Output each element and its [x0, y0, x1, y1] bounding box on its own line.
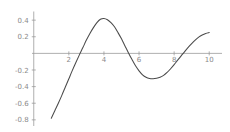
chart-canvas: 246810 0.40.2-0.2-0.4-0.6-0.8	[0, 0, 230, 132]
y-tick-label: 0.4	[18, 17, 30, 25]
x-tick-label: 6	[137, 56, 142, 64]
y-tick-label: -0.2	[15, 67, 29, 75]
y-tick-label: -0.6	[15, 100, 29, 108]
y-axis-ticks: 0.40.2-0.2-0.4-0.6-0.8	[15, 17, 36, 125]
chart-figure: 246810 0.40.2-0.2-0.4-0.6-0.8	[0, 0, 230, 132]
y-tick-label: 0.2	[18, 33, 29, 41]
x-tick-label: 10	[205, 56, 214, 64]
x-tick-label: 4	[102, 56, 107, 64]
axes-group	[32, 12, 222, 127]
data-series-group	[51, 18, 209, 118]
y-tick-label: -0.8	[15, 116, 29, 124]
y-tick-label: -0.4	[15, 83, 29, 91]
x-tick-label: 2	[67, 56, 71, 64]
data-curve	[51, 18, 209, 118]
